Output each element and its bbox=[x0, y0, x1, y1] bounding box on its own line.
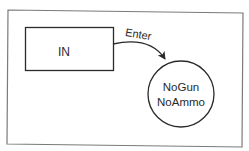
state-label-line-2: NoAmmo bbox=[157, 96, 205, 108]
state-in-label: IN bbox=[58, 45, 70, 59]
state-nogun-noammo: NoGun NoAmmo bbox=[148, 61, 214, 127]
state-in: IN bbox=[26, 28, 114, 71]
state-nogun-noammo-circle bbox=[148, 61, 214, 127]
state-label-line-1: NoGun bbox=[163, 81, 199, 93]
diagram-canvas: IN Enter NoGun NoAmmo bbox=[0, 0, 249, 151]
